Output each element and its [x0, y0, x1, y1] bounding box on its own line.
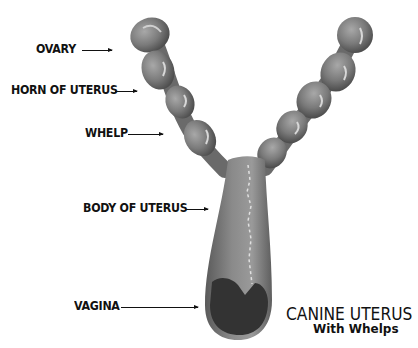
diagram-subtitle: With Whelps — [313, 322, 399, 336]
arrow-body-of-uterus — [186, 209, 208, 210]
left-uterine-horn — [125, 12, 225, 170]
right-uterine-horn — [251, 17, 373, 174]
label-horn-of-uterus: HORN OF UTERUS — [11, 83, 118, 97]
arrow-vagina — [121, 307, 198, 308]
arrow-horn-of-uterus — [115, 91, 137, 92]
arrow-ovary — [82, 50, 112, 51]
label-whelp: WHELP — [85, 126, 128, 140]
canine-uterus-diagram: OVARY HORN OF UTERUS WHELP BODY OF UTERU… — [0, 0, 418, 348]
label-body-of-uterus: BODY OF UTERUS — [83, 201, 187, 215]
diagram-title: CANINE UTERUS — [286, 303, 412, 324]
label-vagina: VAGINA — [74, 299, 120, 313]
label-ovary: OVARY — [36, 42, 76, 56]
arrow-whelp — [128, 134, 163, 135]
vaginal-opening — [210, 278, 268, 335]
